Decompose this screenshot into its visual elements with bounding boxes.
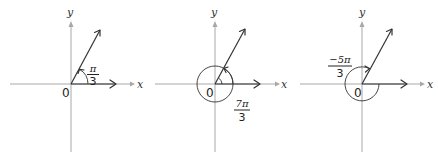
x-axis-label: x [281,78,288,91]
origin-label: 0 [206,86,214,100]
angle-label-numerator: π [89,63,97,74]
x-axis-label: x [137,78,144,91]
terminal-side [362,29,392,84]
angle-label-numerator: 7π [236,98,249,109]
y-axis-arrow-icon [69,21,74,27]
panel-3: x y 0 −5π 3 [300,6,434,152]
x-axis-label: x [427,78,434,91]
x-axis-arrow-icon [275,82,280,87]
angle-label-denominator: 3 [90,75,97,88]
panel-1: x y 0 π 3 [10,6,144,152]
origin-label: 0 [354,86,362,100]
y-axis-label: y [358,6,366,19]
angle-label-denominator: 3 [239,111,246,124]
inner-angle-arc [219,78,223,84]
x-axis-arrow-icon [420,82,425,87]
y-axis-arrow-icon [360,21,365,27]
angle-label-denominator: 3 [337,67,344,80]
angle-label-numerator: −5π [329,54,351,65]
y-axis-label: y [210,6,218,19]
terminal-side [215,29,245,84]
y-axis-arrow-icon [213,21,218,27]
y-axis-label: y [66,6,74,19]
panel-2: x y 0 7π 3 [155,6,288,152]
angle-label: 7π 3 [234,98,250,124]
angle-label: −5π 3 [328,54,352,80]
origin-label: 0 [62,86,70,100]
angle-diagrams: x y 0 π 3 x y 0 [0,0,438,159]
x-axis-arrow-icon [130,82,135,87]
angle-arc [80,69,89,84]
